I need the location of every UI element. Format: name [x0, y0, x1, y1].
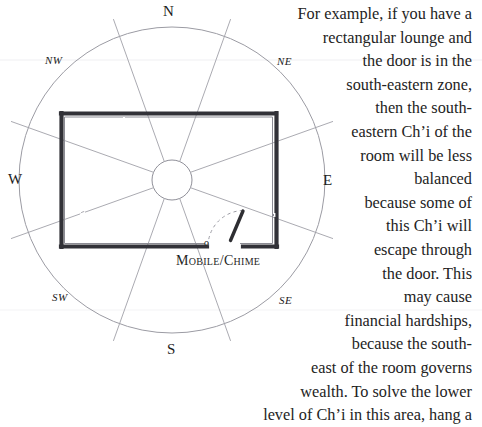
door-leaf: [231, 211, 244, 241]
body-text-line: rectangular lounge and: [246, 26, 472, 50]
door-hinge-marker: o: [204, 237, 209, 248]
door-swing-arc: [208, 211, 243, 246]
body-text-line: this Ch’i will: [246, 214, 472, 238]
compass-label-s: S: [167, 342, 175, 357]
body-text-line: east of the room governs: [246, 356, 472, 380]
body-text-line: For example, if you have a: [246, 2, 472, 26]
body-text-line: room will be less: [246, 144, 472, 168]
body-text-line: then the south-: [246, 96, 472, 120]
body-text-line: south-eastern zone,: [246, 73, 472, 97]
body-text-line: the door. This: [246, 262, 472, 286]
body-text-line: eastern Ch’i of the: [246, 120, 472, 144]
body-text-line: may cause: [246, 285, 472, 309]
compass-label-n: N: [163, 4, 174, 19]
compass-label-sw: SW: [52, 292, 68, 303]
body-text-line: financial hardships,: [246, 309, 472, 333]
body-text-line: balanced: [246, 167, 472, 191]
compass-label-w: W: [8, 172, 22, 187]
body-text-line: because some of: [246, 191, 472, 215]
body-text-line: because the south-: [246, 332, 472, 356]
room-door: [208, 211, 243, 246]
body-text-line: wealth. To solve the lower: [246, 380, 472, 404]
body-text-line: level of Ch’i in this area, hang a: [246, 403, 472, 427]
compass-hub-circle: [152, 160, 192, 200]
body-text-line: the door is in the: [246, 49, 472, 73]
body-text-column: For example, if you have arectangular lo…: [246, 2, 472, 427]
body-text-line: escape through: [246, 238, 472, 262]
compass-label-nw: NW: [45, 55, 63, 66]
